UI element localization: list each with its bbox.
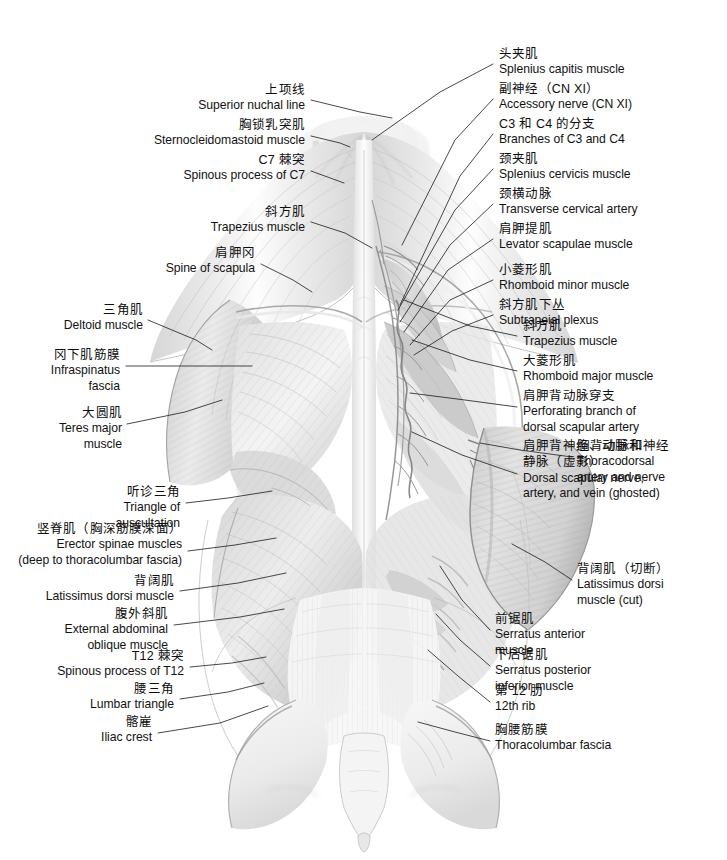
callout-en-label: Rhomboid major muscle — [523, 369, 653, 385]
callout-cn-label: 肩胛背动脉穿支 — [523, 388, 639, 404]
callout-en-label: Infraspinatus — [51, 363, 120, 379]
callout-erector-spinae-muscles: 竖脊肌（胸深筋膜深面）Erector spinae muscles(deep t… — [18, 521, 182, 569]
callout-cn-label: 颈横动脉 — [499, 186, 637, 202]
callout-cn-label: 胸腰筋膜 — [495, 722, 611, 738]
callout-cn-label: 腰三角 — [90, 681, 174, 697]
callout-branches-of-c3-and-c4: C3 和 C4 的分支Branches of C3 and C4 — [499, 116, 625, 148]
callout-en-label: Branches of C3 and C4 — [499, 132, 625, 148]
callout-en-label: Serratus posterior — [495, 663, 591, 679]
callout-twelfth-rib: 第 12 肋12th rib — [495, 683, 543, 715]
callout-en-label: muscle — [59, 437, 122, 453]
callout-lumbar-triangle: 腰三角Lumbar triangle — [90, 681, 174, 713]
callout-cn-label: 斜方肌下丛 — [499, 297, 598, 313]
callout-en-label: Perforating branch of — [523, 404, 639, 420]
callout-en-label: Latissimus dorsi muscle — [46, 589, 174, 605]
callout-rhomboid-minor-muscle: 小菱形肌Rhomboid minor muscle — [499, 262, 629, 294]
callout-thoracolumbar-fascia: 胸腰筋膜Thoracolumbar fascia — [495, 722, 611, 754]
callout-en-label: Levator scapulae muscle — [499, 237, 633, 253]
callout-cn-label: 上项线 — [198, 82, 305, 98]
callout-infraspinatus-fascia: 冈下肌筋膜Infraspinatusfascia — [51, 347, 120, 395]
callout-cn-label: 三角肌 — [64, 302, 143, 318]
callout-en-label: Spine of scapula — [166, 261, 255, 277]
anatomy-plate: 上项线Superior nuchal line胸锁乳突肌Sternocleido… — [0, 0, 727, 860]
callout-en-label: Splenius cervicis muscle — [499, 167, 631, 183]
callout-cn-label: T12 棘突 — [57, 648, 184, 664]
callout-cn-label: C3 和 C4 的分支 — [499, 116, 625, 132]
label-layer: 上项线Superior nuchal line胸锁乳突肌Sternocleido… — [0, 0, 727, 860]
callout-cn-label: 腹外斜肌 — [65, 606, 168, 622]
callout-en-label: Serratus anterior — [495, 627, 585, 643]
callout-en-label: dorsal scapular artery — [523, 420, 639, 436]
callout-en-label: Teres major — [59, 421, 122, 437]
callout-en-label: Splenius capitis muscle — [499, 62, 625, 78]
callout-cn-label: 头夹肌 — [499, 46, 625, 62]
callout-en-label: Lumbar triangle — [90, 697, 174, 713]
callout-thoracodorsal-artery-and-nerve: 胸背动脉和神经Thoracodorsalartery and nerve — [577, 438, 669, 486]
callout-en-label: Iliac crest — [101, 730, 152, 746]
callout-cn-label: 冈下肌筋膜 — [51, 347, 120, 363]
callout-en-label: artery, and vein (ghosted) — [523, 486, 660, 502]
callout-en-label: Latissimus dorsi — [577, 577, 669, 593]
callout-levator-scapulae-muscle: 肩胛提肌Levator scapulae muscle — [499, 221, 633, 253]
callout-iliac-crest: 髂嵟Iliac crest — [101, 714, 152, 746]
callout-en-label: Accessory nerve (CN XI) — [499, 97, 632, 113]
callout-transverse-cervical-artery: 颈横动脉Transverse cervical artery — [499, 186, 637, 218]
callout-cn-label: 肩胛冈 — [166, 245, 255, 261]
callout-cn-label: 下后锯肌 — [495, 647, 591, 663]
callout-spinous-process-of-c7: C7 棘突Spinous process of C7 — [183, 152, 305, 184]
callout-en-label: Triangle of — [116, 500, 180, 516]
callout-en-label: Rhomboid minor muscle — [499, 278, 629, 294]
callout-en-label: fascia — [51, 379, 120, 395]
callout-cn-label: 胸背动脉和神经 — [577, 438, 669, 454]
callout-en-label: 12th rib — [495, 699, 543, 715]
callout-cn-label: 背阔肌 — [46, 573, 174, 589]
callout-en-label: muscle (cut) — [577, 593, 669, 609]
callout-spinous-process-of-t12: T12 棘突Spinous process of T12 — [57, 648, 184, 680]
callout-cn-label: 大圆肌 — [59, 405, 122, 421]
callout-spine-of-scapula: 肩胛冈Spine of scapula — [166, 245, 255, 277]
callout-en-label: Superior nuchal line — [198, 98, 305, 114]
callout-trapezius-muscle-right: 斜方肌Trapezius muscle — [523, 318, 617, 350]
callout-cn-label: 副神经（CN XI） — [499, 81, 632, 97]
callout-perforating-branch-dorsal-scapular-artery: 肩胛背动脉穿支Perforating branch ofdorsal scapu… — [523, 388, 639, 436]
callout-sternocleidomastoid-muscle: 胸锁乳突肌Sternocleidomastoid muscle — [154, 117, 305, 149]
callout-splenius-capitis-muscle: 头夹肌Splenius capitis muscle — [499, 46, 625, 78]
callout-en-label: artery and nerve — [577, 470, 669, 486]
callout-teres-major-muscle: 大圆肌Teres majormuscle — [59, 405, 122, 453]
callout-cn-label: 前锯肌 — [495, 611, 585, 627]
callout-en-label: Trapezius muscle — [523, 334, 617, 350]
callout-cn-label: 大菱形肌 — [523, 353, 653, 369]
callout-cn-label: 胸锁乳突肌 — [154, 117, 305, 133]
callout-cn-label: 肩胛提肌 — [499, 221, 633, 237]
callout-en-label: Sternocleidomastoid muscle — [154, 133, 305, 149]
callout-en-label: Spinous process of T12 — [57, 664, 184, 680]
callout-superior-nuchal-line: 上项线Superior nuchal line — [198, 82, 305, 114]
callout-cn-label: 第 12 肋 — [495, 683, 543, 699]
callout-en-label: Thoracolumbar fascia — [495, 738, 611, 754]
callout-cn-label: 颈夹肌 — [499, 151, 631, 167]
callout-latissimus-dorsi-muscle-cut: 背阔肌（切断）Latissimus dorsimuscle (cut) — [577, 561, 669, 609]
callout-en-label: (deep to thoracolumbar fascia) — [18, 553, 182, 569]
callout-en-label: Spinous process of C7 — [183, 168, 305, 184]
callout-en-label: Erector spinae muscles — [18, 537, 182, 553]
callout-latissimus-dorsi-muscle-left: 背阔肌Latissimus dorsi muscle — [46, 573, 174, 605]
callout-external-abdominal-oblique-muscle: 腹外斜肌External abdominaloblique muscle — [65, 606, 168, 654]
callout-en-label: Deltoid muscle — [64, 318, 143, 334]
callout-en-label: Trapezius muscle — [211, 220, 305, 236]
callout-rhomboid-major-muscle: 大菱形肌Rhomboid major muscle — [523, 353, 653, 385]
callout-cn-label: 斜方肌 — [523, 318, 617, 334]
callout-accessory-nerve-cn-xi: 副神经（CN XI）Accessory nerve (CN XI) — [499, 81, 632, 113]
callout-splenius-cervicis-muscle: 颈夹肌Splenius cervicis muscle — [499, 151, 631, 183]
callout-deltoid-muscle: 三角肌Deltoid muscle — [64, 302, 143, 334]
callout-cn-label: 斜方肌 — [211, 204, 305, 220]
callout-trapezius-muscle-left: 斜方肌Trapezius muscle — [211, 204, 305, 236]
callout-cn-label: 髂嵟 — [101, 714, 152, 730]
callout-cn-label: 小菱形肌 — [499, 262, 629, 278]
callout-cn-label: C7 棘突 — [183, 152, 305, 168]
callout-en-label: Transverse cervical artery — [499, 202, 637, 218]
callout-cn-label: 听诊三角 — [116, 484, 180, 500]
callout-cn-label: 背阔肌（切断） — [577, 561, 669, 577]
callout-cn-label: 竖脊肌（胸深筋膜深面） — [18, 521, 182, 537]
callout-en-label: Thoracodorsal — [577, 454, 669, 470]
callout-en-label: External abdominal — [65, 622, 168, 638]
